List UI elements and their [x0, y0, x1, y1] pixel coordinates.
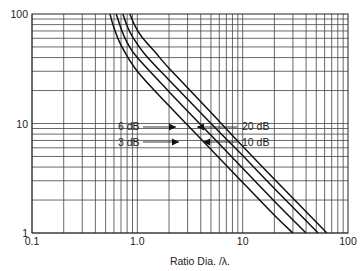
grid-lines	[32, 14, 348, 233]
x-tick-label: 100	[339, 235, 357, 247]
y-tick-label: 10	[16, 118, 28, 130]
annotation-label: 10 dB	[242, 136, 269, 148]
arrow-head-icon	[172, 139, 179, 146]
annotation-3db: 3 dB	[118, 136, 179, 148]
y-tick-label: 1	[22, 227, 28, 239]
x-axis-label: Ratio Dia. /λ.	[170, 255, 230, 267]
annotation-6db: 6 dB	[118, 120, 176, 132]
x-tick-label: 10	[237, 235, 249, 247]
annotation-label: 6 dB	[118, 120, 140, 132]
y-tick-label: 100	[10, 8, 28, 20]
x-tick-label: 1.0	[130, 235, 145, 247]
annotation-label: 20 dB	[242, 120, 269, 132]
annotation-20db: 20 dB	[197, 120, 269, 132]
arrow-head-icon	[169, 124, 176, 131]
chart: 6 dB3 dB20 dB10 dB 0.11.010100 110100 Ra…	[0, 0, 364, 271]
y-tick-labels: 110100	[10, 8, 28, 239]
x-tick-labels: 0.11.010100	[25, 235, 357, 247]
annotation-label: 3 dB	[118, 136, 140, 148]
